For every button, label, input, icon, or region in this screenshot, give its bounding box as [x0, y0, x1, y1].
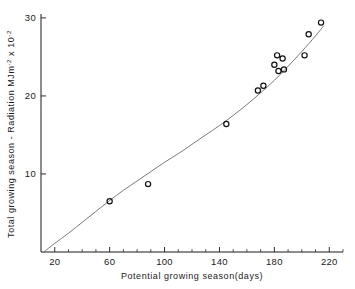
x-tick-label: 20 — [49, 256, 60, 267]
radiation-growing-season-chart: 2060100140180220 102030 Potential growin… — [0, 0, 355, 289]
y-tick-label: 10 — [25, 168, 36, 179]
y-axis-title-main: Total growing season - Radiation MJm — [6, 66, 16, 238]
x-tick-label: 100 — [156, 256, 173, 267]
y-tick-label: 30 — [25, 12, 36, 23]
x-tick-label: 140 — [211, 256, 228, 267]
x-tick-label: 180 — [266, 256, 283, 267]
x-tick-label: 220 — [321, 256, 338, 267]
x-tick-label: 60 — [104, 256, 115, 267]
y-tick-label: 20 — [25, 90, 36, 101]
chart-background — [0, 0, 355, 289]
x-axis-title: Potential growing season(days) — [121, 271, 263, 281]
y-axis-title-mid: x 10 — [6, 37, 16, 59]
y-axis-title-superscript-2: -2 — [5, 30, 12, 37]
